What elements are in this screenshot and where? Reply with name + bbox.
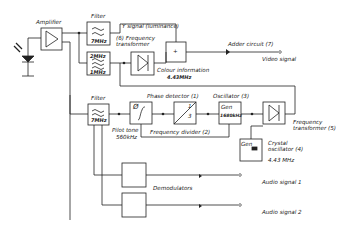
block-diagram bbox=[0, 0, 347, 231]
crystal-freq: 4.43 MHz bbox=[268, 158, 294, 164]
freq-transformer-6-label: (6) Frequency transformer bbox=[116, 36, 166, 47]
adder-label: Adder circuit (7) bbox=[228, 42, 273, 48]
phase-detector-symbol: Ø bbox=[133, 104, 139, 111]
audio-signal-2-label: Audio signal 2 bbox=[262, 210, 302, 216]
crystal-label: Crystal oscillator (4) bbox=[268, 141, 308, 152]
filter-mid-freq-top: 2MHz bbox=[90, 54, 106, 59]
audio-signal-1-label: Audio signal 1 bbox=[262, 180, 302, 186]
divider-label: Frequency divider (2) bbox=[150, 130, 210, 136]
filter-top-freq: 7MHz bbox=[91, 39, 107, 44]
amplifier-label: Amplifier bbox=[36, 20, 61, 26]
pilot-freq-label: 560kHz bbox=[116, 135, 137, 141]
freq-transformer-5-label: Frequency transformer (5) bbox=[293, 120, 343, 131]
frequency-transformer-5-block bbox=[263, 102, 285, 124]
adder-symbol: + bbox=[173, 49, 178, 55]
filter-pilot-freq: 7MHz bbox=[91, 118, 107, 123]
demodulators-label: Demodulators bbox=[153, 186, 193, 192]
filter-top-label: Filter bbox=[91, 14, 105, 20]
filter-mid-freq-bottom: 1MHz bbox=[90, 70, 106, 75]
demodulator-1-block bbox=[122, 163, 146, 187]
crystal-inner: Gen bbox=[241, 142, 252, 148]
oscillator-label: Oscillator (3) bbox=[213, 94, 249, 100]
oscillator-inner: Gen bbox=[221, 105, 232, 111]
divider-num: 1 bbox=[188, 104, 192, 110]
colour-freq-label: 4.43MHz bbox=[167, 75, 191, 80]
demodulator-2-block bbox=[122, 193, 146, 217]
photodiode-icon bbox=[14, 38, 41, 76]
amplifier-block bbox=[41, 28, 62, 50]
y-signal-label: Y signal (luminance) bbox=[122, 24, 179, 30]
divider-den: 3 bbox=[188, 114, 192, 120]
phase-detector-label: Phase detector (1) bbox=[147, 94, 199, 100]
pilot-tone-label: Pilot tone bbox=[112, 128, 138, 134]
video-signal-label: Video signal bbox=[262, 57, 296, 63]
oscillator-freq: 1680kHz bbox=[220, 114, 242, 119]
filter-pilot-label: Filter bbox=[91, 96, 105, 102]
frequency-transformer-6-block bbox=[131, 52, 154, 75]
colour-info-label: Colour information bbox=[157, 68, 209, 74]
